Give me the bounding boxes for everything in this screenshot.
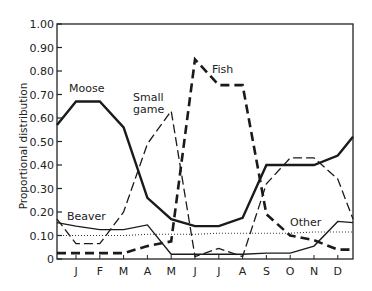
x-tick-label: F xyxy=(97,265,103,278)
y-tick-label: 0 xyxy=(47,253,54,266)
x-tick-label: J xyxy=(73,265,77,278)
label-moose: Moose xyxy=(69,82,105,95)
x-tick-label: J xyxy=(216,265,220,278)
y-tick-label: 0.50 xyxy=(30,136,55,149)
x-tick-label: N xyxy=(310,265,318,278)
y-axis-title: Proportional distribution xyxy=(17,83,29,210)
y-tick-label: 1.00 xyxy=(30,18,55,31)
y-tick-label: 0.60 xyxy=(30,112,55,125)
y-tick-label: 0.80 xyxy=(30,65,55,78)
x-tick-label: S xyxy=(263,265,270,278)
y-tick-label: 0.70 xyxy=(30,89,55,102)
series-other xyxy=(57,232,353,236)
y-tick-label: 0.40 xyxy=(30,159,55,172)
series-moose xyxy=(57,102,353,227)
y-tick-label: 0.30 xyxy=(30,183,55,196)
y-tick-label: 0.90 xyxy=(30,42,55,55)
x-tick-label: O xyxy=(286,265,295,278)
label-fish: Fish xyxy=(212,63,233,76)
y-tick-label: 0.10 xyxy=(30,230,55,243)
y-tick-label: 0.20 xyxy=(30,206,55,219)
x-tick-label: A xyxy=(144,265,152,278)
label-small-game-line2: game xyxy=(133,103,164,116)
series-small-game xyxy=(57,111,353,257)
label-other: Other xyxy=(290,216,322,229)
line-chart: 00.100.200.300.400.500.600.700.800.901.0… xyxy=(0,0,372,291)
x-tick-label: D xyxy=(334,265,342,278)
x-tick-label: A xyxy=(239,265,247,278)
label-beaver: Beaver xyxy=(67,210,106,223)
x-tick-label: J xyxy=(192,265,196,278)
x-tick-label: M xyxy=(119,265,129,278)
x-tick-label: M xyxy=(166,265,176,278)
